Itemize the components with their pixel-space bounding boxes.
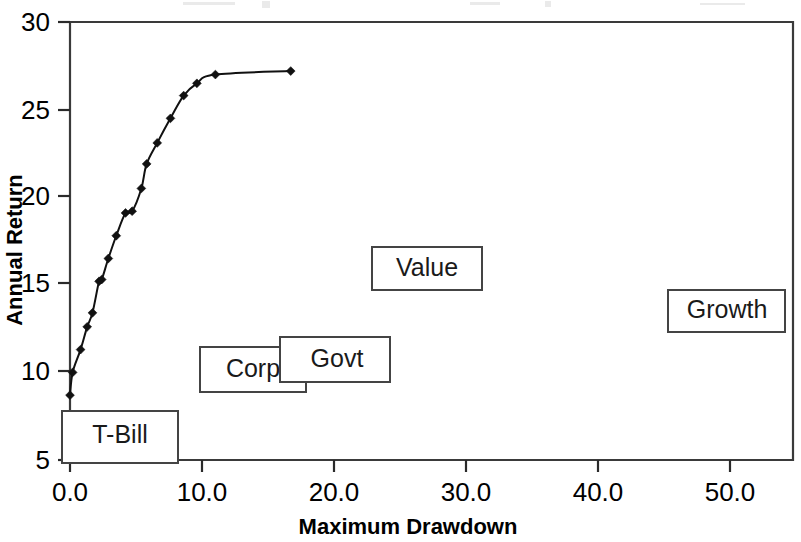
series-point [76, 345, 85, 354]
x-tick-label-40: 40.0 [573, 477, 624, 507]
y-tick-label-10: 10 [21, 356, 50, 386]
series-point [88, 308, 97, 317]
scan-artifacts [183, 1, 745, 8]
annual-return-vs-drawdown-chart: 30 25 20 15 10 5 0.0 10.0 20.0 30.0 40.0… [0, 0, 801, 542]
series-point [153, 138, 162, 147]
y-tick-label-5: 5 [36, 445, 50, 475]
series-point [137, 184, 146, 193]
series-point [211, 70, 220, 79]
series-point [83, 322, 92, 331]
x-axis-title: Maximum Drawdown [299, 514, 518, 539]
annotation-tbill: T-Bill [62, 411, 178, 463]
annotation-value: Value [372, 247, 482, 290]
annotation-label-value: Value [396, 253, 458, 281]
series-point [142, 160, 151, 169]
annotation-growth: Growth [668, 290, 785, 332]
annotation-label-govt: Govt [311, 344, 364, 372]
chart-page: 30 25 20 15 10 5 0.0 10.0 20.0 30.0 40.0… [0, 0, 801, 542]
plot-frame [70, 22, 793, 460]
x-tick-label-20: 20.0 [309, 477, 360, 507]
y-axis-title: Annual Return [2, 174, 27, 326]
x-tick-label-10: 10.0 [177, 477, 228, 507]
x-axis-tick-labels: 0.0 10.0 20.0 30.0 40.0 50.0 [52, 477, 755, 507]
annotation-label-tbill: T-Bill [92, 420, 148, 448]
annotation-label-growth: Growth [687, 295, 768, 323]
series-point [128, 207, 137, 216]
x-tick-label-0: 0.0 [52, 477, 88, 507]
x-tick-label-50: 50.0 [705, 477, 756, 507]
series-point [286, 67, 295, 76]
series-point [112, 231, 121, 240]
series-point [66, 391, 75, 400]
series-point [166, 114, 175, 123]
annotation-label-corp: Corp [226, 354, 280, 382]
y-tick-label-25: 25 [21, 95, 50, 125]
series-point [121, 209, 130, 218]
y-tick-label-30: 30 [21, 7, 50, 37]
series-point [104, 254, 113, 263]
x-tick-label-30: 30.0 [441, 477, 492, 507]
annotation-govt: Govt [280, 337, 390, 382]
